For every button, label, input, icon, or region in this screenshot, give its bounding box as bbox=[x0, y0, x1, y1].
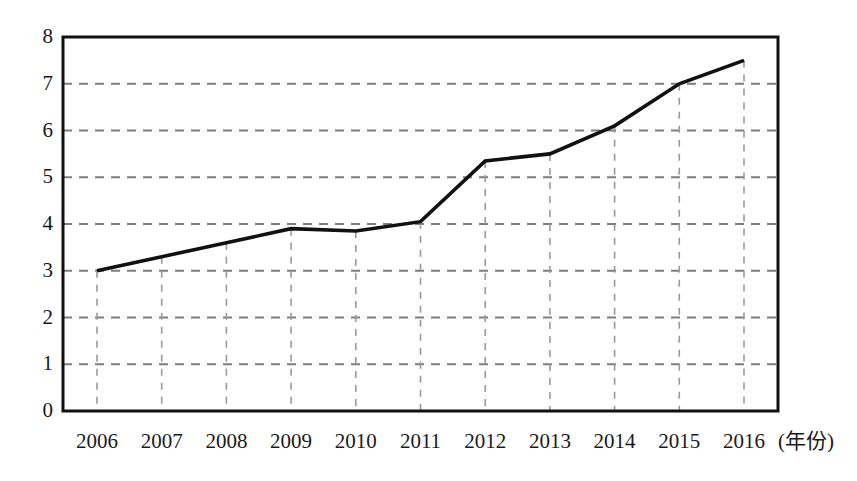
x-axis-tick-2015: 2015 bbox=[658, 431, 700, 452]
y-axis-tick-0: 0 bbox=[27, 400, 53, 421]
y-axis-tick-1: 1 bbox=[27, 353, 53, 374]
x-axis-tick-2014: 2014 bbox=[594, 431, 636, 452]
x-axis-unit-label: (年份) bbox=[778, 431, 834, 452]
x-axis-tick-2013: 2013 bbox=[529, 431, 571, 452]
y-axis-tick-8: 8 bbox=[27, 26, 53, 47]
y-axis-tick-6: 6 bbox=[27, 120, 53, 141]
line-chart-canvas bbox=[0, 0, 857, 481]
x-axis-tick-2011: 2011 bbox=[400, 431, 441, 452]
x-axis-tick-2008: 2008 bbox=[205, 431, 247, 452]
x-axis-tick-2009: 2009 bbox=[270, 431, 312, 452]
x-axis-tick-2006: 2006 bbox=[76, 431, 118, 452]
x-axis-tick-2007: 2007 bbox=[141, 431, 183, 452]
y-axis-tick-3: 3 bbox=[27, 260, 53, 281]
y-axis-tick-5: 5 bbox=[27, 166, 53, 187]
vertical-gridlines bbox=[97, 60, 744, 411]
chart-figure: 012345678 200620072008200920102011201220… bbox=[0, 0, 857, 481]
y-axis-tick-4: 4 bbox=[27, 213, 53, 234]
y-axis-tick-7: 7 bbox=[27, 73, 53, 94]
x-axis-tick-2016: 2016 bbox=[723, 431, 765, 452]
x-axis-tick-2010: 2010 bbox=[335, 431, 377, 452]
x-axis-tick-2012: 2012 bbox=[464, 431, 506, 452]
y-axis-tick-2: 2 bbox=[27, 307, 53, 328]
